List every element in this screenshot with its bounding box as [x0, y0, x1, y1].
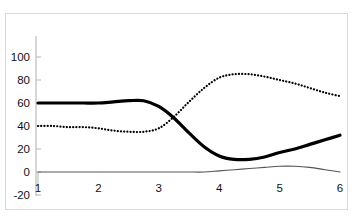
y-tick-label-80: 80 — [0, 74, 30, 86]
y-tick-label--20: -20 — [0, 189, 30, 201]
chart-canvas — [0, 0, 356, 223]
series-line-thin-flat-series — [38, 166, 340, 172]
y-tick-label-60: 60 — [0, 97, 30, 109]
data-series-group — [38, 74, 340, 172]
y-tick-label-100: 100 — [0, 51, 30, 63]
x-tick-label-6: 6 — [330, 182, 350, 194]
series-line-thick-solid-series — [38, 100, 340, 159]
chart-screenshot: 100806040200-20 123456 — [0, 0, 356, 223]
x-tick-label-3: 3 — [149, 182, 169, 194]
x-tick-label-5: 5 — [270, 182, 290, 194]
x-tick-label-1: 1 — [28, 182, 48, 194]
x-tick-label-2: 2 — [88, 182, 108, 194]
y-tick-label-0: 0 — [0, 166, 30, 178]
x-tick-label-4: 4 — [209, 182, 229, 194]
y-tick-label-40: 40 — [0, 120, 30, 132]
y-tick-label-20: 20 — [0, 143, 30, 155]
